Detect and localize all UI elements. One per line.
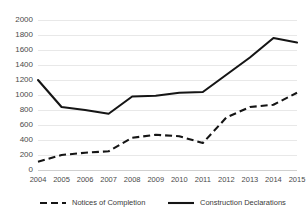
x-tick-label: 2014 bbox=[265, 175, 282, 184]
x-tick-label: 2013 bbox=[242, 175, 259, 184]
x-tick-label: 2009 bbox=[147, 175, 164, 184]
x-tick-label: 2015 bbox=[289, 175, 306, 184]
series-line bbox=[38, 93, 297, 162]
chart-plot-area: 0200400600800100012001400160018002000 20… bbox=[0, 0, 306, 220]
y-tick-label: 1200 bbox=[15, 75, 33, 84]
x-tick-label: 2006 bbox=[77, 175, 94, 184]
x-tick-label: 2007 bbox=[100, 175, 117, 184]
legend-label: Construction Declarations bbox=[200, 198, 286, 207]
legend-label: Notices of Completion bbox=[72, 198, 145, 207]
x-tick-label: 2005 bbox=[53, 175, 70, 184]
y-tick-label: 1800 bbox=[15, 30, 33, 39]
x-tick-label: 2010 bbox=[171, 175, 188, 184]
y-tick-label: 400 bbox=[20, 135, 34, 144]
x-tick-label: 2004 bbox=[30, 175, 47, 184]
y-axis-tick-labels: 0200400600800100012001400160018002000 bbox=[15, 15, 33, 174]
y-tick-label: 200 bbox=[20, 150, 34, 159]
y-tick-label: 800 bbox=[20, 105, 34, 114]
data-series bbox=[38, 38, 297, 162]
x-tick-label: 2011 bbox=[195, 175, 211, 184]
y-tick-label: 0 bbox=[29, 165, 34, 174]
y-tick-label: 2000 bbox=[15, 15, 33, 24]
y-tick-label: 1000 bbox=[15, 90, 33, 99]
y-tick-label: 1600 bbox=[15, 45, 33, 54]
line-chart: 0200400600800100012001400160018002000 20… bbox=[0, 0, 306, 220]
series-line bbox=[38, 38, 297, 114]
chart-canvas: 0200400600800100012001400160018002000 20… bbox=[0, 0, 306, 220]
y-tick-label: 600 bbox=[20, 120, 34, 129]
chart-legend: Notices of CompletionConstruction Declar… bbox=[40, 198, 286, 207]
x-axis-tick-labels: 2004200520062007200820092010201120122013… bbox=[30, 175, 306, 184]
x-tick-label: 2008 bbox=[124, 175, 141, 184]
x-tick-label: 2012 bbox=[218, 175, 235, 184]
y-tick-label: 1400 bbox=[15, 60, 33, 69]
